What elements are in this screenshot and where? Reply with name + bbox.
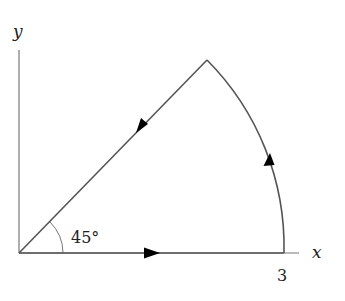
arrow-right-icon (144, 248, 160, 259)
x-axis-label: x (312, 242, 322, 262)
arrow-down-left-icon (136, 118, 148, 133)
contour-segment-diagonal (19, 60, 207, 253)
contour-arc (207, 60, 284, 253)
angle-label: 45° (71, 228, 99, 247)
angle-arc (50, 222, 63, 253)
arrow-up-icon (264, 153, 275, 166)
y-axis-label: y (12, 21, 23, 41)
contour-diagram: y x 45° 3 (0, 0, 345, 301)
radius-tick-label: 3 (277, 266, 287, 285)
